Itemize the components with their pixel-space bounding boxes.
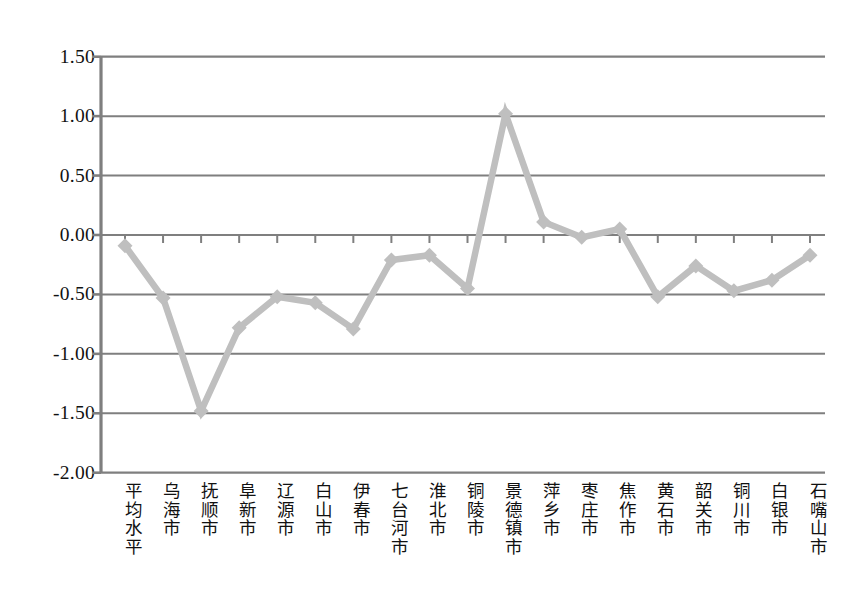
x-axis-category-label: 石嘴山市 [795, 482, 825, 556]
x-axis-category-label: 阜新市 [224, 482, 254, 538]
x-axis-category-label: 铜川市 [719, 482, 749, 538]
x-axis-category-label: 黄石市 [643, 482, 673, 538]
x-axis-category-label: 伊春市 [338, 482, 368, 538]
x-axis-category-label: 抚顺市 [186, 482, 216, 538]
x-axis-category-label: 枣庄市 [567, 482, 597, 538]
x-axis-category-label: 七台河市 [376, 482, 406, 556]
x-axis-category-label: 韶关市 [681, 482, 711, 538]
x-axis-category-label: 白银市 [757, 482, 787, 538]
x-axis-category-label: 乌海市 [148, 482, 178, 538]
chart-container: 1.501.000.500.00-0.50-1.00-1.50-2.00 平均水… [0, 0, 866, 605]
x-axis-category-label: 淮北市 [414, 482, 444, 538]
x-axis-category-label: 萍乡市 [529, 482, 559, 538]
x-axis-category-label: 平均水平 [110, 482, 140, 556]
x-axis-category-label: 白山市 [300, 482, 330, 538]
x-axis-labels: 平均水平乌海市抚顺市阜新市辽源市白山市伊春市七台河市淮北市铜陵市景德镇市萍乡市枣… [0, 0, 866, 605]
x-axis-category-label: 景德镇市 [491, 482, 521, 556]
x-axis-category-label: 焦作市 [605, 482, 635, 538]
x-axis-category-label: 铜陵市 [453, 482, 483, 538]
x-axis-category-label: 辽源市 [262, 482, 292, 538]
